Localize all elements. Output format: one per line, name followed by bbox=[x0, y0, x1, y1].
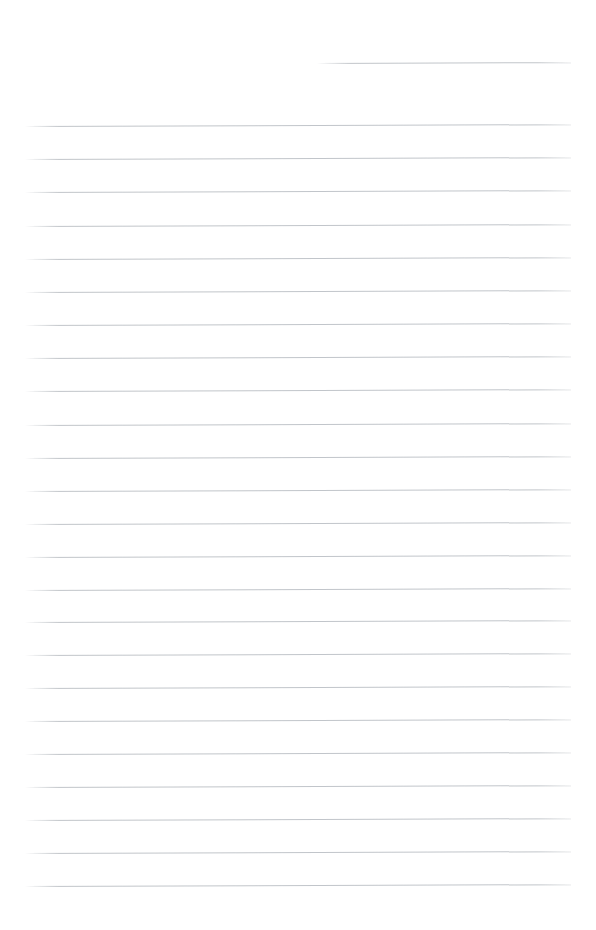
ruled-line bbox=[25, 686, 571, 689]
ruled-line bbox=[25, 456, 571, 459]
ruled-line bbox=[25, 719, 571, 722]
ruled-line bbox=[25, 323, 571, 326]
ruled-line bbox=[25, 389, 571, 392]
ruled-line-partial bbox=[317, 62, 571, 64]
ruled-line bbox=[25, 489, 571, 492]
ruled-line bbox=[25, 818, 571, 821]
ruled-line bbox=[25, 190, 571, 193]
ruled-line bbox=[25, 588, 571, 591]
ruled-line bbox=[25, 423, 571, 426]
ruled-line bbox=[25, 653, 571, 656]
ruled-line bbox=[25, 356, 571, 359]
ruled-line bbox=[25, 884, 571, 887]
ruled-line bbox=[25, 851, 571, 854]
ruled-line bbox=[25, 224, 571, 227]
lined-page bbox=[0, 0, 596, 930]
ruled-line bbox=[25, 290, 571, 293]
ruled-line bbox=[25, 157, 571, 160]
ruled-line bbox=[25, 785, 571, 788]
ruled-line bbox=[25, 257, 571, 260]
paper-texture bbox=[0, 0, 596, 930]
ruled-line bbox=[25, 124, 571, 127]
ruled-line bbox=[25, 555, 571, 558]
ruled-line bbox=[25, 752, 571, 755]
ruled-line bbox=[25, 620, 571, 623]
ruled-line bbox=[25, 522, 571, 525]
